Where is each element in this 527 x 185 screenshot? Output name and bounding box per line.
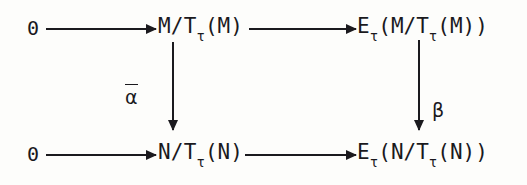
arrow-label-alpha-bar: α xyxy=(125,84,138,107)
subscript-tau: τ xyxy=(370,154,378,170)
arrow-head xyxy=(168,120,178,131)
subscript-tau: τ xyxy=(370,28,378,44)
arrow-shaft xyxy=(418,40,420,130)
arrow-shaft xyxy=(245,154,356,156)
object-bottom-left-zero: 0 xyxy=(27,144,39,164)
arrow-head xyxy=(414,120,424,131)
arrow-head xyxy=(346,150,357,160)
object-top-right-close: (M)) xyxy=(437,14,488,38)
arrow-shaft xyxy=(249,28,356,30)
arrow-left-vertical xyxy=(168,42,178,130)
object-top-right-open: (M/T xyxy=(378,14,429,38)
object-top-left-zero: 0 xyxy=(27,18,39,38)
commutative-diagram: 0 M/Tτ(M) Eτ(M/Tτ(M)) α β 0 N/Tτ(N) Eτ(N xyxy=(0,0,527,185)
arrow-head xyxy=(146,150,157,160)
object-top-middle-arg: (M) xyxy=(205,14,243,38)
subscript-tau-inner: τ xyxy=(429,154,437,170)
object-bottom-middle-arg: (N) xyxy=(205,140,243,164)
arrow-shaft xyxy=(46,28,156,30)
object-bottom-right-open: (N/T xyxy=(378,140,429,164)
arrow-shaft xyxy=(172,42,174,130)
arrow-shaft xyxy=(46,154,156,156)
arrow-top-right-horizontal xyxy=(249,24,356,34)
object-top-right-base: E xyxy=(357,14,370,38)
arrow-bottom-right-horizontal xyxy=(245,150,356,160)
subscript-tau-inner: τ xyxy=(429,28,437,44)
subscript-tau: τ xyxy=(197,28,205,44)
object-bottom-right-close: (N)) xyxy=(437,140,488,164)
object-top-middle: M/Tτ(M) xyxy=(158,16,243,37)
object-bottom-right: Eτ(N/Tτ(N)) xyxy=(357,142,488,163)
arrow-top-left-horizontal xyxy=(46,24,156,34)
arrow-label-beta: β xyxy=(432,101,444,120)
arrow-right-vertical xyxy=(414,40,424,130)
object-top-right: Eτ(M/Tτ(M)) xyxy=(357,16,488,37)
object-bottom-middle: N/Tτ(N) xyxy=(158,142,243,163)
object-top-middle-base: M/T xyxy=(158,14,197,38)
arrow-bottom-left-horizontal xyxy=(46,150,156,160)
object-bottom-middle-base: N/T xyxy=(158,140,197,164)
object-bottom-right-base: E xyxy=(357,140,370,164)
arrow-head xyxy=(346,24,357,34)
arrow-head xyxy=(146,24,157,34)
subscript-tau: τ xyxy=(197,154,205,170)
